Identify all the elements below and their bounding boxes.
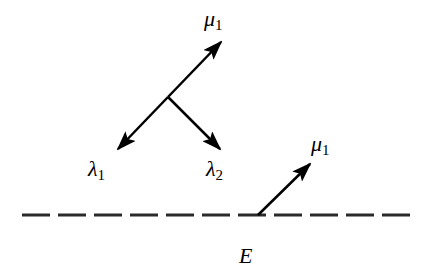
label-lambda2: λ2 <box>206 158 223 183</box>
label-mu1-top: μ1 <box>204 8 223 33</box>
arrow-lambda1 <box>118 97 168 149</box>
arrow-lambda2 <box>168 97 220 149</box>
diagram-canvas <box>0 0 429 274</box>
arrow-mu1-at-E <box>258 164 310 215</box>
label-lambda1: λ1 <box>88 158 105 183</box>
arrow-mu1-top <box>168 42 221 97</box>
label-mu1-right: μ1 <box>311 133 330 158</box>
label-E: E <box>239 245 252 267</box>
